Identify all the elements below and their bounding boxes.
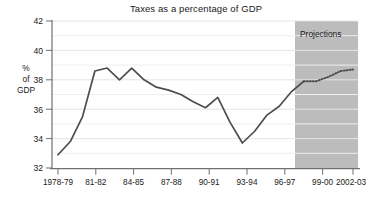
projections-label: Projections xyxy=(300,29,341,39)
x-axis-ticks xyxy=(58,169,353,175)
x-tick-label-1978-79: 1978-79 xyxy=(43,178,73,187)
y-tick-label-34: 34 xyxy=(33,134,43,144)
y-axis-ticks xyxy=(46,21,52,168)
x-tick-label-90-91: 90-91 xyxy=(199,178,220,187)
y-axis-title-line-3: GDP xyxy=(17,85,36,95)
y-tick-label-42: 42 xyxy=(33,16,43,26)
x-tick-label-81-82: 81-82 xyxy=(85,178,106,187)
x-tick-label-96-97: 96-97 xyxy=(274,178,295,187)
y-axis-title-line-1: % xyxy=(22,63,30,73)
y-tick-label-36: 36 xyxy=(33,105,43,115)
y-tick-label-40: 40 xyxy=(33,46,43,56)
chart-plot-area: Projections 42 40 38 36 34 32 % of GDP xyxy=(0,0,378,198)
x-tick-label-99-00: 99-00 xyxy=(312,178,333,187)
chart-screenshot: Taxes as a percentage of GDP Projections xyxy=(0,0,378,198)
x-tick-label-87-88: 87-88 xyxy=(161,178,182,187)
y-axis-title-line-2: of xyxy=(23,74,31,84)
x-tick-label-93-94: 93-94 xyxy=(237,178,258,187)
x-tick-label-84-85: 84-85 xyxy=(123,178,144,187)
x-tick-label-2002-03: 2002-03 xyxy=(336,178,366,187)
y-tick-label-38: 38 xyxy=(33,75,43,85)
y-tick-label-32: 32 xyxy=(33,163,43,173)
